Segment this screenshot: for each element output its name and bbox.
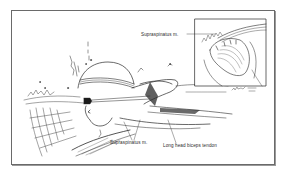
- artist-signature: [232, 87, 256, 91]
- label-supraspinatus-main: Supraspinatus m.: [110, 140, 147, 145]
- label-supraspinatus-inset: Supraspinatus m.: [141, 32, 178, 37]
- swimmer-head: [78, 62, 150, 126]
- inset-shoulder-detail: [195, 19, 266, 86]
- swimmer-illustration: [0, 0, 286, 172]
- label-biceps-tendon: Long head biceps tendon: [163, 143, 217, 148]
- water-lines: [24, 90, 84, 156]
